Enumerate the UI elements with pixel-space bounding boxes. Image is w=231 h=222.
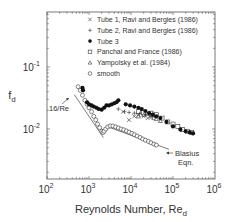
legend-label: Panchal and France (1986) (97, 48, 182, 56)
legend-label: Tube 1, Ravi and Bergles (1986) (97, 16, 198, 24)
filled-circle-marker (191, 131, 195, 135)
data-points (76, 85, 195, 147)
filled-circle-marker (132, 104, 136, 108)
x-marker (127, 118, 131, 122)
x-tick-label: 103 (80, 182, 95, 195)
x-tick-label: 105 (164, 182, 179, 195)
open-circle-marker (96, 122, 100, 126)
legend-label: Tube 3 (97, 38, 119, 45)
friction-factor-chart: Tube 1, Ravi and Bergles (1986)Tube 2, R… (0, 0, 231, 222)
filled-circle-marker (171, 124, 175, 128)
arrowhead (166, 152, 169, 155)
legend-label: Yampolsky et al. (1984) (97, 59, 170, 67)
x-axis-title: Reynolds Number, Red (75, 203, 187, 218)
annotation-16-re: 16/Re (49, 104, 69, 113)
annotation-blasius: Blasius (175, 149, 199, 158)
open-circle-marker (88, 72, 92, 76)
filled-circle-marker (124, 102, 128, 106)
filled-circle-marker (184, 129, 188, 133)
filled-circle-marker (147, 111, 151, 115)
plus-marker (88, 29, 92, 33)
y-axis-title: fd (8, 89, 16, 104)
x-tick-label: 104 (122, 182, 137, 195)
x-marker (88, 18, 92, 22)
filled-circle-marker (164, 120, 168, 124)
filled-circle-marker (158, 116, 162, 120)
legend-label: smooth (97, 70, 120, 77)
annotation-eqn: Eqn. (178, 158, 193, 167)
filled-circle-marker (81, 88, 85, 92)
open-circle-marker (76, 85, 80, 89)
filled-circle-marker (128, 103, 132, 107)
open-circle-marker (94, 118, 98, 122)
plus-marker (127, 110, 131, 114)
open-triangle-marker (88, 61, 92, 64)
filled-circle-marker (143, 109, 147, 113)
filled-circle-marker (88, 39, 92, 43)
filled-circle-marker (178, 127, 182, 131)
open-square-marker (88, 50, 92, 54)
open-circle-marker (80, 93, 84, 97)
x-tick-label: 102 (38, 182, 53, 195)
y-tick-label: 10-2 (23, 122, 40, 135)
filled-circle-marker (140, 107, 144, 111)
filled-circle-marker (154, 114, 158, 118)
y-tick-label: 10-1 (23, 60, 40, 73)
legend: Tube 1, Ravi and Bergles (1986)Tube 2, R… (88, 16, 198, 77)
open-circle-marker (154, 143, 158, 147)
plus-marker (116, 107, 120, 111)
legend-label: Tube 2, Ravi and Bergles (1986) (97, 27, 198, 35)
open-circle-marker (90, 110, 94, 114)
x-tick-label: 106 (206, 182, 221, 195)
filled-circle-marker (116, 98, 120, 102)
axis-labels: 10210310410510610-110-2Reynolds Number, … (8, 60, 221, 218)
